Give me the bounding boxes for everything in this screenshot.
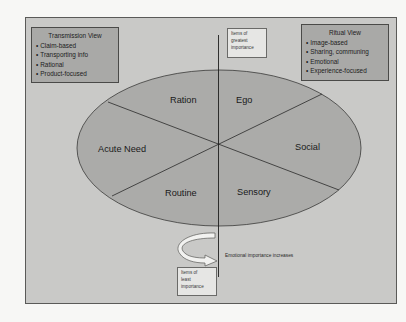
list-item: Transporting info: [36, 50, 114, 60]
ritual-view-title: Ritual View: [306, 28, 384, 38]
ritual-view-box: Ritual View Image-based Sharing, communi…: [301, 24, 389, 81]
emotional-importance-caption: Emotional importance increases: [225, 253, 293, 258]
greatest-importance-label: Items of greatest importance: [227, 28, 267, 58]
transmission-view-box: Transmission View Claim-based Transporti…: [31, 27, 119, 83]
label-line: Items of: [231, 30, 263, 37]
list-item: Emotional: [306, 57, 384, 67]
list-item: Rational: [36, 60, 114, 70]
segment-ego: Ego: [236, 95, 252, 105]
segment-ration: Ration: [170, 95, 197, 105]
label-line: least: [181, 276, 213, 283]
ritual-view-list: Image-based Sharing, communing Emotional…: [306, 38, 384, 76]
segment-routine: Routine: [165, 188, 197, 198]
segment-social: Social: [295, 142, 320, 152]
list-item: Experience-focused: [306, 66, 384, 76]
segment-sensory: Sensory: [237, 187, 271, 197]
label-line: greatest: [231, 37, 263, 44]
transmission-view-list: Claim-based Transporting info Rational P…: [36, 41, 114, 79]
list-item: Claim-based: [36, 41, 114, 51]
transmission-view-title: Transmission View: [36, 31, 114, 41]
label-line: importance: [231, 44, 263, 51]
segment-acute-need: Acute Need: [98, 144, 146, 154]
list-item: Image-based: [306, 38, 384, 48]
label-line: Items of: [181, 269, 213, 276]
curved-arrow-icon: [178, 233, 217, 266]
list-item: Product-focused: [36, 69, 114, 79]
list-item: Sharing, communing: [306, 47, 384, 57]
least-importance-label: Items of least importance: [177, 267, 217, 296]
label-line: importance: [181, 283, 213, 290]
